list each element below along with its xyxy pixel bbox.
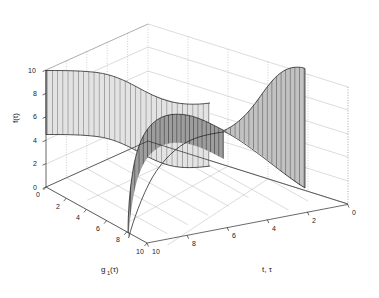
x-tick-label: 4 [272,225,276,232]
z-tick-label: 4 [33,137,37,144]
x-tick-8: 8 [187,235,196,247]
x-tick-label: 0 [352,209,356,216]
depth-axis-title-base: g [101,265,105,274]
x-tick-6: 6 [227,227,236,239]
z-tick-10: 10 [28,67,46,74]
peak-ribbon-surface [224,67,305,188]
x-tick-0: 0 [348,204,357,216]
x-tick-2: 2 [307,212,316,224]
x-tick-label: 2 [312,217,316,224]
surface-plot-3d: 10 8 6 4 2 [0,0,379,298]
x-axis-title: t, τ [262,265,273,274]
z-tick-label: 10 [28,67,36,74]
z-axis: 10 8 6 4 2 [11,67,46,191]
depth-tick-label: 2 [56,203,60,210]
z-tick-label: 6 [33,113,37,120]
depth-tick-label: 4 [76,214,80,221]
depth-tick-2: 2 [56,198,66,209]
depth-axis-title: g 1 (τ) [101,265,119,276]
x-tick-label: 8 [192,240,196,247]
z-tick-6: 6 [33,113,46,120]
depth-tick-label: 8 [116,236,120,243]
z-tick-label: 8 [33,90,37,97]
z-tick-label: 2 [33,160,37,167]
depth-tick-4: 4 [76,209,86,220]
z-tick-4: 4 [33,137,46,144]
z-tick-2: 2 [33,160,46,167]
z-axis-title: f(t) [11,113,20,123]
depth-tick-10: 10 [136,243,147,255]
depth-tick-label: 10 [136,248,144,255]
x-tick-label: 6 [232,232,236,239]
depth-axis-title-tail: (τ) [110,265,119,274]
depth-tick-label: 6 [96,225,100,232]
x-axis: 10 8 6 4 2 [147,204,356,274]
x-tick-10: 10 [147,243,160,255]
x-tick-label: 10 [152,248,160,255]
depth-tick-label: 0 [36,191,40,198]
depth-tick-0: 0 [36,187,46,198]
z-tick-label: 0 [33,184,37,191]
depth-tick-6: 6 [96,221,107,233]
z-tick-8: 8 [33,90,46,97]
figure-canvas: 10 8 6 4 2 [0,0,379,298]
depth-tick-8: 8 [116,232,127,244]
